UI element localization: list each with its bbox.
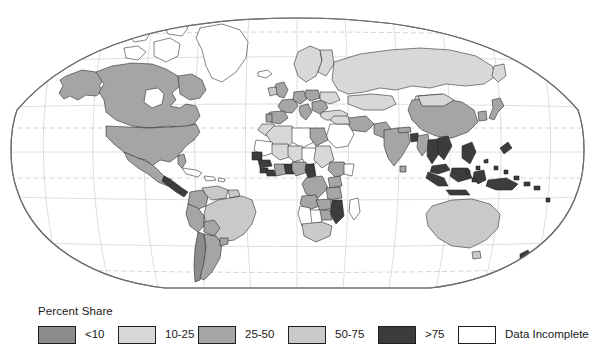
legend-label-50-75: 50-75 [335,329,364,341]
region-java [446,190,470,195]
legend-item-data-incomplete: Data Incomplete [458,325,589,345]
map-area [0,0,595,300]
region-senegal [252,152,262,160]
legend-item-10-25: 10-25 [118,325,194,345]
legend-title: Percent Share [38,305,113,317]
legend-swatch-25-50 [198,326,236,344]
region-tanzania [326,187,342,200]
region-tasmania [472,251,481,259]
legend-label-10-25: 10-25 [165,329,194,341]
legend-swatch-gt75 [378,326,416,344]
legend-label-data-incomplete: Data Incomplete [505,329,589,341]
region-nepal [398,127,411,133]
region-liberia [266,170,276,176]
legend-swatch-incomplete [458,326,496,344]
legend-swatch-lt10 [38,326,76,344]
region-somalia [344,164,354,176]
region-korea [478,111,487,121]
region-kenya [328,176,342,188]
map-legend: Percent Share <10 10-25 25-50 50-75 >75 [0,300,595,352]
legend-label-25-50: 25-50 [245,329,274,341]
region-sri-lanka [400,166,406,172]
legend-items-row: <10 10-25 25-50 50-75 >75 Data Incomplet [0,325,595,347]
world-map-svg [0,0,595,300]
region-portugal [266,114,272,122]
region-puerto-rico [218,178,225,182]
legend-swatch-10-25 [118,326,156,344]
legend-label-gt75: >75 [425,329,445,341]
world-map-figure: Percent Share <10 10-25 25-50 50-75 >75 [0,0,595,356]
legend-label-lt10: <10 [85,329,105,341]
legend-item-gt75: >75 [378,325,445,345]
legend-item-lt10: <10 [38,325,105,345]
legend-item-50-75: 50-75 [288,325,364,345]
legend-item-25-50: 25-50 [198,325,274,345]
legend-swatch-50-75 [288,326,326,344]
figure-caption [6,349,586,356]
